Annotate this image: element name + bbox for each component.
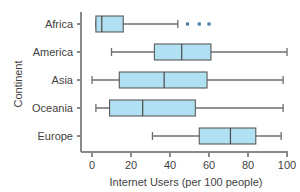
box-america <box>112 44 288 60</box>
y-axis-ticks <box>77 24 81 136</box>
x-tick-label-60: 60 <box>203 159 215 171</box>
y-tick-label-oceania: Oceania <box>32 102 74 114</box>
y-tick-label-africa: Africa <box>45 18 74 30</box>
x-axis-tick-labels: 020406080100 <box>89 159 296 171</box>
box-rect <box>119 72 207 88</box>
x-tick-label-80: 80 <box>242 159 254 171</box>
box-africa <box>96 16 211 32</box>
y-axis-title: Continent <box>12 60 24 107</box>
boxplot-svg: AfricaAmericaAsiaOceaniaEurope 020406080… <box>0 0 300 192</box>
boxplot-chart: AfricaAmericaAsiaOceaniaEurope 020406080… <box>0 0 300 192</box>
box-rect <box>154 44 211 60</box>
outlier-point <box>186 22 189 25</box>
x-tick-label-40: 40 <box>164 159 176 171</box>
x-tick-label-100: 100 <box>278 159 296 171</box>
x-tick-label-0: 0 <box>89 159 95 171</box>
box-rect <box>96 16 123 32</box>
box-rect <box>199 128 256 144</box>
x-axis-title: Internet Users (per 100 people) <box>110 176 263 188</box>
outlier-point <box>207 22 210 25</box>
y-tick-label-europe: Europe <box>38 130 73 142</box>
x-tick-label-20: 20 <box>125 159 137 171</box>
box-series <box>92 16 287 144</box>
box-rect <box>110 100 196 116</box>
y-axis-tick-labels: AfricaAmericaAsiaOceaniaEurope <box>32 18 74 142</box>
outlier-point <box>198 22 201 25</box>
box-europe <box>152 128 281 144</box>
x-axis-ticks <box>92 152 287 157</box>
box-oceania <box>96 100 283 116</box>
box-asia <box>92 72 283 88</box>
y-tick-label-america: America <box>33 46 74 58</box>
plot-area: AfricaAmericaAsiaOceaniaEurope 020406080… <box>32 12 296 171</box>
y-tick-label-asia: Asia <box>52 74 74 86</box>
